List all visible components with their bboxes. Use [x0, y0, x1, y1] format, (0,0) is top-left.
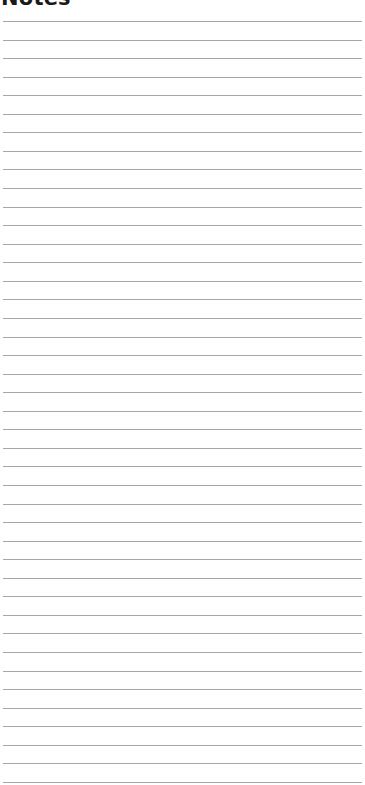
ruled-line	[3, 522, 362, 523]
ruled-line	[3, 262, 362, 263]
ruled-line	[3, 95, 362, 96]
ruled-line	[3, 355, 362, 356]
ruled-line	[3, 466, 362, 467]
ruled-line	[3, 337, 362, 338]
ruled-lines-area[interactable]	[3, 0, 362, 785]
ruled-line	[3, 448, 362, 449]
ruled-line	[3, 225, 362, 226]
ruled-line	[3, 745, 362, 746]
ruled-line	[3, 411, 362, 412]
ruled-line	[3, 169, 362, 170]
ruled-line	[3, 281, 362, 282]
ruled-line	[3, 21, 362, 22]
ruled-line	[3, 633, 362, 634]
ruled-line	[3, 652, 362, 653]
ruled-line	[3, 40, 362, 41]
ruled-line	[3, 207, 362, 208]
ruled-line	[3, 559, 362, 560]
notes-page: Notes	[0, 0, 365, 785]
ruled-line	[3, 374, 362, 375]
ruled-line	[3, 541, 362, 542]
ruled-line	[3, 132, 362, 133]
ruled-line	[3, 615, 362, 616]
ruled-line	[3, 151, 362, 152]
ruled-line	[3, 114, 362, 115]
ruled-line	[3, 485, 362, 486]
ruled-line	[3, 578, 362, 579]
ruled-line	[3, 429, 362, 430]
ruled-line	[3, 596, 362, 597]
ruled-line	[3, 188, 362, 189]
ruled-line	[3, 782, 362, 783]
ruled-line	[3, 671, 362, 672]
ruled-line	[3, 299, 362, 300]
ruled-line	[3, 318, 362, 319]
ruled-line	[3, 244, 362, 245]
ruled-line	[3, 726, 362, 727]
ruled-line	[3, 58, 362, 59]
ruled-line	[3, 77, 362, 78]
ruled-line	[3, 504, 362, 505]
ruled-line	[3, 392, 362, 393]
ruled-line	[3, 763, 362, 764]
ruled-line	[3, 708, 362, 709]
ruled-line	[3, 689, 362, 690]
